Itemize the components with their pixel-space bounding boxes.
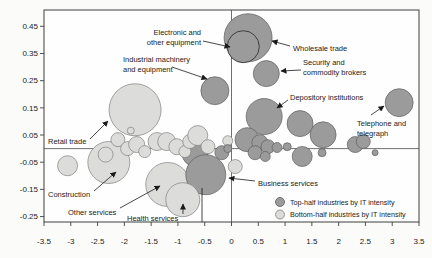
legend-swatch-top [276, 198, 285, 207]
x-tick-label: 2 [336, 237, 341, 246]
bubble-industrial-machinery-and-equipment [201, 77, 229, 105]
annotation-security-and-commodity-brokers-label-line: commodity brokers [303, 68, 367, 77]
annotation-depository-institutions-label-line: Depository institutions [290, 93, 364, 102]
annotation-health-services-label: Health services [127, 214, 179, 223]
annotation-retail-trade-label: Retail trade [48, 137, 86, 146]
annotation-security-and-commodity-brokers-label-line: Security and [303, 58, 345, 67]
bubble-bottom [58, 156, 78, 176]
x-tick-label: -3.5 [37, 237, 51, 246]
bubble-bottom [223, 136, 233, 146]
bubble-top [224, 145, 232, 153]
bubble-top [287, 111, 313, 137]
y-tick-label: 0.15 [22, 104, 38, 113]
y-tick-label: 0.35 [22, 49, 38, 58]
annotation-business-services-label: Business services [258, 179, 318, 188]
annotation-construction-label-line: Construction [48, 190, 90, 199]
bubble-top [292, 146, 312, 166]
bubble-telephone-and-telegraph [385, 89, 413, 117]
x-tick-label: 1.5 [306, 237, 318, 246]
annotation-electronic-and-other-equipment-label-line: Electronic and [153, 28, 201, 37]
legend-item-top: Top-half industries by IT intensity [276, 198, 395, 207]
chart-canvas: -3.5-3-2.5-2-1.5-1-0.500.511.522.533.50.… [0, 0, 432, 258]
y-tick-label: 0.25 [22, 76, 38, 85]
annotation-other-services-label: Other services [68, 208, 117, 217]
y-tick-label: -0.25 [20, 212, 39, 221]
x-tick-label: -2 [121, 237, 129, 246]
x-tick-label: 1 [283, 237, 288, 246]
bubble-top [318, 149, 326, 157]
legend-label-bottom: Bottom-half industries by IT intensity [290, 210, 406, 219]
legend-item-bottom: Bottom-half industries by IT intensity [276, 210, 407, 219]
bubble-bottom [228, 160, 242, 174]
bubble-top [283, 143, 291, 151]
annotation-other-services-label-line: Other services [68, 208, 117, 217]
annotation-health-services-label-line: Health services [127, 214, 179, 223]
annotation-electronic-and-other-equipment-label-line: other equipment [147, 38, 202, 47]
x-tick-label: -1.5 [144, 237, 158, 246]
annotation-construction-label: Construction [48, 190, 90, 199]
bubble-top [260, 151, 270, 161]
annotation-business-services-label-line: Business services [258, 179, 318, 188]
annotation-wholesale-trade-label-line: Wholesale trade [293, 44, 347, 53]
annotation-depository-institutions-label: Depository institutions [290, 93, 364, 102]
x-tick-label: 2.5 [360, 237, 372, 246]
x-tick-label: -0.5 [198, 237, 212, 246]
bubble-bottom [98, 147, 113, 162]
annotation-telephone-and-telegraph-label-line: Telephone and [357, 119, 406, 128]
bubble-top [310, 122, 336, 148]
y-tick-label: -0.05 [20, 158, 39, 167]
legend-label-top: Top-half industries by IT intensity [290, 198, 395, 207]
annotation-industrial-machinery-and-equipment-label-line: and equipment [123, 65, 174, 74]
bubble-bottom [139, 146, 151, 158]
legend-swatch-bottom [276, 210, 285, 219]
bubble-bottom [201, 140, 215, 154]
x-tick-label: 0 [229, 237, 234, 246]
x-tick-label: -3 [67, 237, 75, 246]
annotation-telephone-and-telegraph-label-line: telegraph [357, 129, 388, 138]
bubble-top [272, 143, 282, 153]
bubble-security-and-commodity-brokers [253, 61, 279, 87]
bubble-electronic-and-other-equipment [227, 31, 259, 63]
bubble-retail-trade [109, 84, 161, 136]
annotation-electronic-and-other-equipment-label: Electronic andother equipment [147, 28, 202, 47]
y-tick-label: 0.45 [22, 22, 38, 31]
x-tick-label: 3.5 [413, 237, 425, 246]
bubble-bottom [127, 127, 134, 134]
annotation-wholesale-trade-label: Wholesale trade [293, 44, 347, 53]
x-tick-label: 3 [390, 237, 395, 246]
x-tick-label: -2.5 [91, 237, 105, 246]
y-tick-label: -0.15 [20, 185, 39, 194]
x-tick-label: 0.5 [253, 237, 265, 246]
x-tick-label: -1 [174, 237, 182, 246]
bubble-top [372, 150, 378, 156]
bubble-chart: -3.5-3-2.5-2-1.5-1-0.500.511.522.533.50.… [0, 0, 432, 258]
bubble-top [248, 146, 262, 160]
annotation-retail-trade-label-line: Retail trade [48, 137, 86, 146]
y-tick-label: 0.05 [22, 131, 38, 140]
annotation-industrial-machinery-and-equipment-label-line: Industrial machinery [123, 55, 190, 64]
